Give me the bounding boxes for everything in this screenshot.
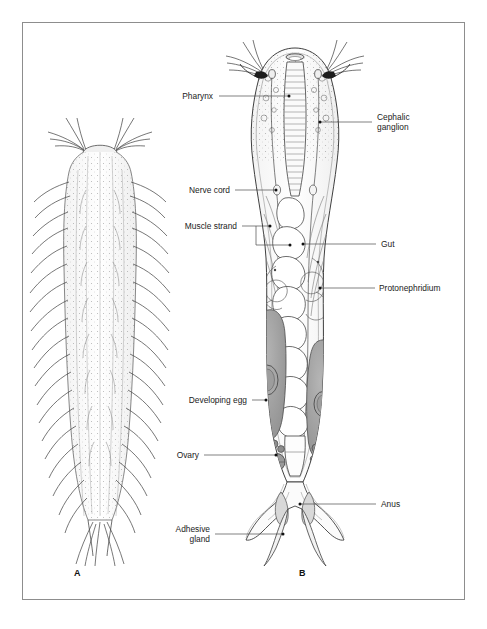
label-muscle-strand: Muscle strand: [185, 221, 237, 231]
label-pharynx: Pharynx: [182, 91, 213, 101]
label-anus: Anus: [381, 499, 400, 509]
panel-a-artwork: [30, 118, 170, 566]
label-protonephridium: Protonephridium: [379, 283, 440, 293]
label-adhesive-gland: Adhesive gland: [176, 524, 210, 544]
label-cephalic-ganglion: Cephalic ganglion: [377, 112, 410, 132]
label-ovary: Ovary: [177, 450, 199, 460]
label-nerve-cord: Nerve cord: [189, 185, 230, 195]
figure-caption-a: A: [74, 568, 81, 578]
panel-b-artwork: [226, 40, 364, 566]
label-gut: Gut: [381, 239, 395, 249]
label-developing-egg: Developing egg: [189, 395, 247, 405]
figure-caption-b: B: [299, 568, 306, 578]
figure-artwork: [0, 0, 487, 629]
